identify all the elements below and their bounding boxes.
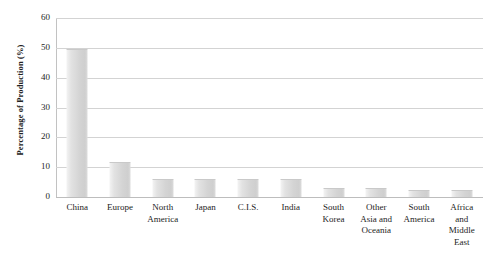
x-label-line: Africa <box>436 202 487 214</box>
bar-slot <box>398 18 441 197</box>
bar-slot <box>440 18 483 197</box>
x-label-line: Middle <box>436 225 487 237</box>
bar-slot <box>56 18 99 197</box>
bar-slot <box>270 18 313 197</box>
bar-chart: Percentage of Production (%) 60504030201… <box>0 0 498 272</box>
x-label-line: and <box>436 214 487 226</box>
bars-layer <box>56 18 483 197</box>
bar-slot <box>141 18 184 197</box>
x-label-africa-and-middle-east: AfricaandMiddleEast <box>436 202 487 248</box>
x-label-line: America <box>137 214 188 226</box>
bar-north-america <box>152 179 173 197</box>
bar-slot <box>227 18 270 197</box>
bar-africa-and-middle-east <box>451 190 472 197</box>
x-axis-category-labels: ChinaEuropeNorthAmericaJapanC.I.S.IndiaS… <box>56 202 483 270</box>
y-tick-label-40: 40 <box>4 73 50 82</box>
bar-slot <box>312 18 355 197</box>
y-tick-label-0: 0 <box>4 192 50 201</box>
bar-c-i-s <box>238 179 259 197</box>
bar-south-america <box>408 190 429 197</box>
bar-slot <box>184 18 227 197</box>
y-tick-label-10: 10 <box>4 162 50 171</box>
bar-south-korea <box>323 188 344 197</box>
y-tick-label-30: 30 <box>4 103 50 112</box>
y-tick-label-50: 50 <box>4 43 50 52</box>
x-label-line: Oceania <box>351 225 402 237</box>
y-axis-tick-labels: 6050403020100 <box>0 18 50 198</box>
bar-china <box>67 49 88 197</box>
bar-slot <box>99 18 142 197</box>
bar-slot <box>355 18 398 197</box>
x-label-line: East <box>436 237 487 249</box>
y-tick-label-60: 60 <box>4 13 50 22</box>
bar-japan <box>195 179 216 197</box>
y-tick-label-20: 20 <box>4 132 50 141</box>
bar-other-asia-and-oceania <box>366 188 387 197</box>
gridline-0 <box>56 197 483 198</box>
bar-europe <box>110 162 131 197</box>
bar-india <box>280 179 301 197</box>
